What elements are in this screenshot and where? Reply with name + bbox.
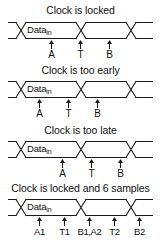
sample-arrows	[8, 159, 153, 168]
signal-label-text: Data	[27, 83, 46, 94]
signal-label-text: Data	[27, 143, 46, 154]
mark-label-t: T	[89, 168, 95, 179]
signal-label-datain: Datain	[27, 84, 51, 95]
mark-label-a: A	[48, 49, 54, 60]
mark-label-b: B	[94, 108, 100, 119]
signal-label-subscript: in	[46, 206, 51, 213]
mark-label-t1: T1	[59, 226, 69, 237]
mark-label-b1a2: B1,A2	[78, 226, 102, 237]
signal-label-datain: Datain	[27, 202, 51, 213]
sample-arrows	[8, 40, 153, 49]
signal-label-text: Data	[27, 201, 46, 212]
panel-title: Clock is too late	[0, 124, 161, 136]
mark-label-a: A	[36, 108, 42, 119]
panel-too-late: Clock is too late Datain A T B	[0, 122, 161, 182]
mark-label-a: A	[59, 168, 65, 179]
timing-diagram-figure: Clock is locked Datain	[0, 0, 161, 249]
panel-too-early: Clock is too early Datain A T B	[0, 62, 161, 122]
sample-arrows	[8, 99, 153, 108]
mark-label-t: T	[78, 49, 84, 60]
panel-title: Clock is locked and 6 samples	[0, 182, 161, 194]
panel-locked: Clock is locked Datain	[0, 0, 161, 62]
signal-label-subscript: in	[46, 29, 51, 36]
panel-title: Clock is locked	[0, 4, 161, 16]
panel-locked-6-samples: Clock is locked and 6 samples Datain	[0, 182, 161, 249]
signal-label-text: Data	[27, 24, 46, 35]
signal-label-datain: Datain	[27, 25, 51, 36]
mark-label-a1: A1	[34, 226, 45, 237]
panel-title: Clock is too early	[0, 64, 161, 76]
signal-label-subscript: in	[46, 88, 51, 95]
signal-label-subscript: in	[46, 148, 51, 155]
mark-label-t2: T2	[109, 226, 119, 237]
mark-label-b: B	[117, 168, 123, 179]
mark-label-t: T	[66, 108, 72, 119]
mark-label-b2: B2	[134, 226, 145, 237]
sample-arrows	[8, 217, 156, 226]
signal-label-datain: Datain	[27, 144, 51, 155]
mark-label-b: B	[106, 49, 112, 60]
